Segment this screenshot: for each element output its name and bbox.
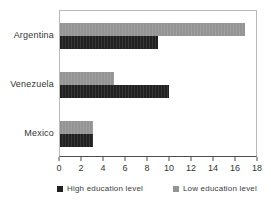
legend-item-low-education-level: Low education level bbox=[173, 184, 257, 193]
x-tick-mark-4 bbox=[103, 157, 104, 161]
category-label-argentina: Argentina bbox=[0, 10, 54, 59]
x-tick-label-14: 14 bbox=[208, 163, 218, 173]
x-tick-mark-12 bbox=[190, 157, 191, 161]
x-tick-mark-10 bbox=[169, 157, 170, 161]
x-tick-mark-6 bbox=[124, 157, 125, 161]
x-tick-mark-2 bbox=[81, 157, 82, 161]
bar-high-education-level-mexico bbox=[60, 134, 93, 147]
bar-high-education-level-argentina bbox=[60, 36, 158, 49]
x-tick-label-8: 8 bbox=[144, 163, 149, 173]
x-tick-label-12: 12 bbox=[186, 163, 196, 173]
x-tick-label-18: 18 bbox=[252, 163, 262, 173]
category-axis-labels: ArgentinaVenezuelaMexico bbox=[0, 10, 54, 157]
legend-item-high-education-level: High education level bbox=[57, 184, 143, 193]
x-tick-mark-8 bbox=[147, 157, 148, 161]
bar-low-education-level-argentina bbox=[60, 23, 245, 36]
x-tick-mark-14 bbox=[213, 157, 214, 161]
bar-low-education-level-venezuela bbox=[60, 72, 114, 85]
category-label-venezuela: Venezuela bbox=[0, 59, 54, 108]
legend-swatch-icon bbox=[173, 186, 179, 192]
legend: High education levelLow education level bbox=[57, 184, 257, 193]
bar-chart: ArgentinaVenezuelaMexico 024681012141618… bbox=[0, 0, 271, 208]
x-tick-mark-16 bbox=[235, 157, 236, 161]
plot-area bbox=[59, 10, 257, 157]
category-label-mexico: Mexico bbox=[0, 108, 54, 157]
x-tick-label-0: 0 bbox=[56, 163, 61, 173]
x-tick-mark-18 bbox=[257, 157, 258, 161]
legend-label: High education level bbox=[67, 184, 143, 193]
bar-group-mexico bbox=[60, 109, 256, 158]
x-tick-label-16: 16 bbox=[230, 163, 240, 173]
bar-group-argentina bbox=[60, 11, 256, 60]
x-tick-label-4: 4 bbox=[100, 163, 105, 173]
value-axis: 024681012141618 bbox=[59, 157, 257, 177]
x-tick-label-6: 6 bbox=[122, 163, 127, 173]
x-tick-label-10: 10 bbox=[164, 163, 174, 173]
bar-low-education-level-mexico bbox=[60, 121, 93, 134]
bar-high-education-level-venezuela bbox=[60, 85, 169, 98]
bar-group-venezuela bbox=[60, 60, 256, 109]
x-tick-mark-0 bbox=[59, 157, 60, 161]
legend-label: Low education level bbox=[183, 184, 257, 193]
legend-swatch-icon bbox=[57, 186, 63, 192]
x-tick-label-2: 2 bbox=[78, 163, 83, 173]
